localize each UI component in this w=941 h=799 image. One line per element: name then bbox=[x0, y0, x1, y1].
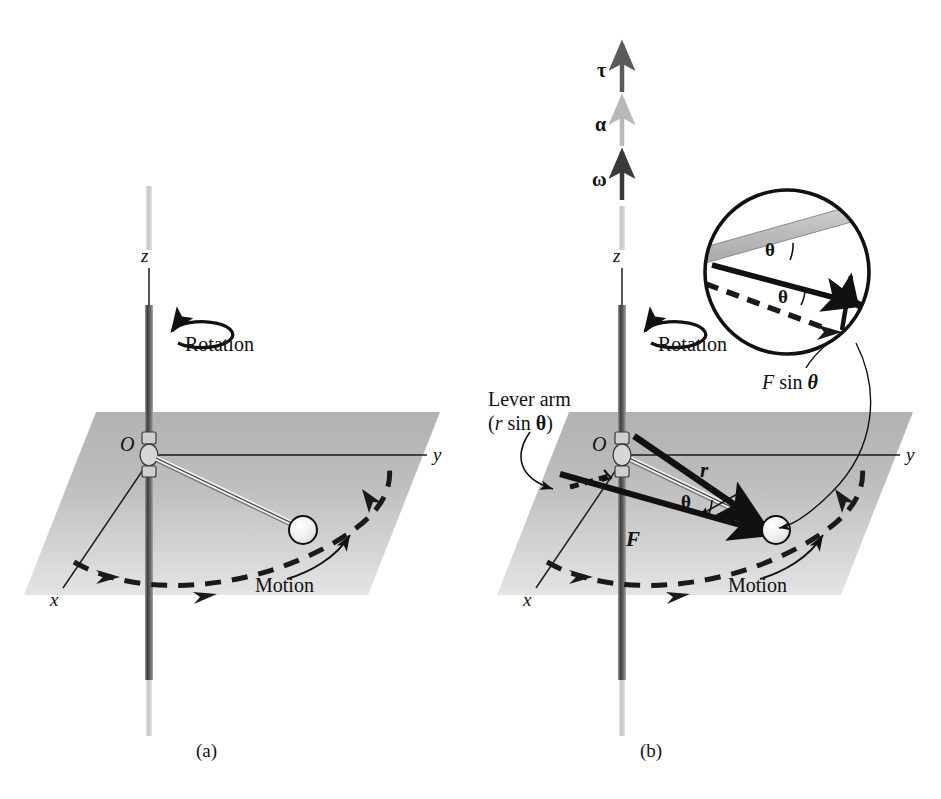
axis-label-x-a: x bbox=[49, 589, 59, 610]
rotation-label-a: Rotation bbox=[185, 333, 254, 355]
force-component-theta: θ bbox=[808, 371, 819, 393]
background bbox=[0, 0, 941, 799]
force-component-sin: sin bbox=[779, 371, 802, 393]
panel-caption-a: (a) bbox=[196, 740, 217, 762]
hub-b bbox=[613, 432, 631, 477]
position-vector-label-r: r bbox=[700, 458, 709, 482]
motion-label-a: Motion bbox=[255, 574, 314, 596]
axis-vector-label-alpha: α bbox=[595, 113, 606, 135]
origin-label-b: O bbox=[592, 433, 606, 455]
motion-label-b: Motion bbox=[728, 574, 787, 596]
lever-arm-sin: sin bbox=[507, 412, 530, 434]
rod-ghost-bottom-a bbox=[146, 680, 152, 736]
figure-canvas: z Rotation y x O bbox=[0, 0, 941, 799]
lever-arm-theta: θ bbox=[536, 412, 546, 434]
angle-theta-label-main: θ bbox=[681, 491, 691, 512]
inset-angle-label-lower: θ bbox=[778, 286, 788, 307]
axis-label-y-a: y bbox=[431, 444, 442, 465]
lever-arm-label-line1: Lever arm bbox=[488, 388, 571, 410]
lever-arm-r: r bbox=[495, 412, 503, 434]
axis-vector-label-omega: ω bbox=[592, 168, 607, 190]
axis-label-x-b: x bbox=[522, 589, 532, 610]
axis-label-z-a: z bbox=[140, 245, 149, 266]
force-component-label: F sin θ bbox=[761, 371, 819, 393]
axis-vector-label-tau: τ bbox=[597, 59, 606, 81]
particle-b bbox=[762, 516, 790, 544]
particle-a bbox=[289, 516, 317, 544]
inset-angle-label-upper: θ bbox=[765, 239, 775, 260]
hub-a bbox=[140, 432, 158, 477]
rod-ghost-top-a bbox=[146, 186, 152, 250]
lever-arm-label-line2: (r sin θ) bbox=[488, 412, 553, 435]
force-vector-label-F: F bbox=[625, 527, 640, 551]
force-component-f: F bbox=[761, 371, 775, 393]
rotation-rod-lower-a bbox=[145, 455, 153, 680]
panel-caption-b: (b) bbox=[640, 740, 662, 762]
origin-label-a: O bbox=[120, 433, 134, 455]
axis-label-z-b: z bbox=[612, 245, 621, 266]
axis-label-y-b: y bbox=[904, 444, 915, 465]
rotation-label-b: Rotation bbox=[658, 333, 727, 355]
rod-ghost-top-b bbox=[619, 206, 625, 250]
rod-ghost-bottom-b bbox=[619, 680, 625, 736]
physics-figure: z Rotation y x O bbox=[0, 0, 941, 799]
